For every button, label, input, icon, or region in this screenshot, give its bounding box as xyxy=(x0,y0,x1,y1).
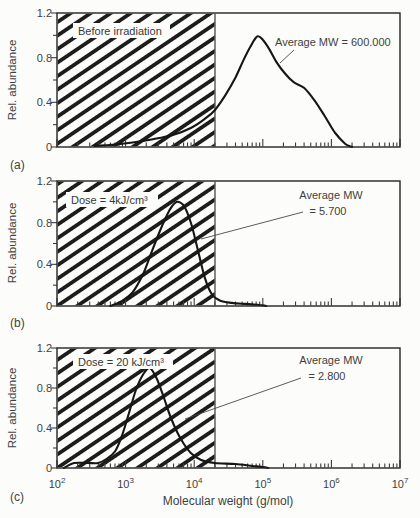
x-tick-exponent: 7 xyxy=(404,476,409,485)
y-tick-label: 1.2 xyxy=(37,175,52,187)
y-tick-label: 0.4 xyxy=(37,258,52,270)
annotation-leader-line xyxy=(280,50,294,63)
y-axis-ticks xyxy=(51,181,57,306)
annotation-leader-line xyxy=(201,212,303,239)
annotation-text-line2: = 2.800 xyxy=(308,370,345,382)
x-tick-exponent: 5 xyxy=(267,476,272,485)
x-tick-base: 10 xyxy=(186,478,198,490)
y-tick-label: 0 xyxy=(46,141,52,153)
y-tick-label: 0.8 xyxy=(37,382,52,394)
x-tick-base: 10 xyxy=(323,478,335,490)
y-tick-label: 0.8 xyxy=(37,217,52,229)
panel-a: Before irradiation Average MW = 600.000 … xyxy=(6,7,400,172)
y-tick-label: 0.4 xyxy=(37,96,52,108)
panel-letter: (c) xyxy=(10,490,24,504)
y-tick-label: 0.8 xyxy=(37,52,52,64)
x-tick-label: 102 xyxy=(49,476,66,490)
panel-letter: (b) xyxy=(10,316,25,330)
y-tick-label: 0 xyxy=(46,462,52,474)
panel-letter: (a) xyxy=(10,158,25,172)
y-axis-title: Rel. abundance xyxy=(6,40,18,121)
x-tick-label: 104 xyxy=(186,476,203,490)
panel-b: Dose = 4kJ/cm³ Average MW = 5.700 Rel. a… xyxy=(6,175,400,330)
molecular-weight-distribution-figure: Before irradiation Average MW = 600.000 … xyxy=(0,0,420,518)
condition-label: Dose = 4kJ/cm³ xyxy=(71,194,148,206)
x-tick-exponent: 3 xyxy=(129,476,134,485)
y-axis-ticks xyxy=(51,348,57,468)
x-tick-base: 10 xyxy=(254,478,266,490)
x-axis-labels: 102 103 104 105 106 107 Molecular weight… xyxy=(49,476,409,508)
y-tick-label: 0 xyxy=(46,300,52,312)
annotation-text-line1: Average MW xyxy=(299,189,363,201)
x-tick-exponent: 6 xyxy=(335,476,340,485)
y-axis-ticks xyxy=(51,13,57,147)
condition-label: Before irradiation xyxy=(78,25,162,37)
y-axis-title: Rel. abundance xyxy=(6,368,18,449)
x-tick-label: 105 xyxy=(254,476,271,490)
x-tick-label: 106 xyxy=(323,476,340,490)
x-tick-label: 107 xyxy=(392,476,409,490)
x-tick-base: 10 xyxy=(49,478,61,490)
annotation-text-line2: = 5.700 xyxy=(309,205,346,217)
y-tick-label: 1.2 xyxy=(37,342,52,354)
x-tick-exponent: 2 xyxy=(61,476,66,485)
y-tick-label: 1.2 xyxy=(37,7,52,19)
x-tick-label: 103 xyxy=(117,476,134,490)
x-axis-title: Molecular weight (g/mol) xyxy=(163,494,294,508)
x-tick-base: 10 xyxy=(392,478,404,490)
x-tick-base: 10 xyxy=(117,478,129,490)
annotation-text: Average MW = 600.000 xyxy=(275,36,391,48)
figure-canvas: Before irradiation Average MW = 600.000 … xyxy=(0,0,420,518)
y-axis-title: Rel. abundance xyxy=(6,203,18,284)
condition-label: Dose = 20 kJ/cm³ xyxy=(78,356,164,368)
x-tick-exponent: 4 xyxy=(198,476,203,485)
y-tick-label: 0.4 xyxy=(37,422,52,434)
annotation-text-line1: Average MW xyxy=(299,354,363,366)
